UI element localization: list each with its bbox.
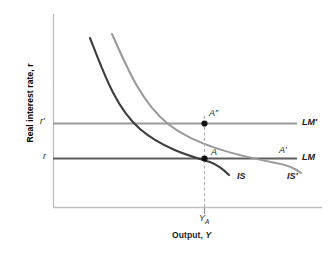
is-prime-curve xyxy=(112,34,301,173)
curve-label-lm: LM xyxy=(302,153,315,162)
y-axis-title-wrapper: Real interest rate, r xyxy=(19,43,33,163)
curve-label-is-prime: IS′ xyxy=(287,172,298,181)
x-tick-label-ya-subscript: A xyxy=(205,218,209,225)
point-a-double-prime-marker xyxy=(201,120,207,126)
x-axis-title-variable: Y xyxy=(205,230,211,240)
x-axis-title: Output, Y xyxy=(172,231,211,240)
y-tick-label-r: r xyxy=(43,152,46,161)
y-tick-label-r-prime: r′ xyxy=(40,117,45,126)
point-label-a: A xyxy=(211,148,217,157)
curve-label-is: IS xyxy=(237,172,246,181)
point-label-a-prime: A′ xyxy=(279,146,287,155)
y-axis-title: Real interest rate, r xyxy=(25,63,35,142)
point-label-a-double-prime: A″ xyxy=(209,109,218,118)
x-axis-title-prefix: Output, xyxy=(172,230,205,240)
is-curve xyxy=(90,38,229,175)
plot-canvas xyxy=(0,0,336,256)
is-lm-figure: Real interest rate, r Output, Y r′ r YA … xyxy=(0,0,336,256)
point-a-marker xyxy=(201,155,207,161)
curve-label-lm-prime: LM′ xyxy=(302,118,317,127)
x-tick-label-ya: YA xyxy=(199,214,209,225)
